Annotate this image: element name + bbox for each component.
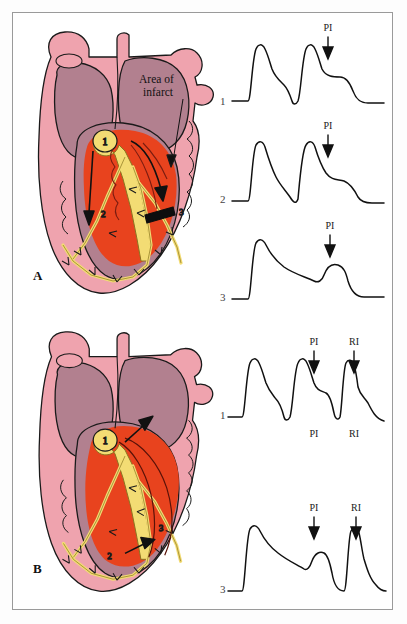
marker-1-a: 1 [103,136,108,147]
trace-a-2-number: 2 [220,193,226,205]
marker-2-b: 2 [107,551,111,561]
trace-b-1-label-pi-below: PI [310,428,319,439]
trace-b-3-label-pi: PI [310,502,319,513]
marker-3-a: 3 [179,207,184,217]
trace-a-1: 1 PI [218,19,390,115]
figure-frame: A [12,12,393,610]
trace-a-3: 3 PI [218,211,390,309]
panel-a: A [13,13,394,313]
trace-a-1-label-pi: PI [324,22,333,33]
trace-b-1-label-ri-below: RI [349,428,359,439]
heart-diagram-a: 1 [21,17,233,307]
trace-a-3-label-pi: PI [326,220,335,231]
trace-a-1-number: 1 [220,95,226,107]
panel-b: B [13,313,394,611]
infarct-label-line2: infarct [143,86,174,98]
marker-2-a: 2 [101,209,106,219]
infarct-label-line1: Area of [139,73,174,85]
marker-1-b: 1 [103,435,108,446]
trace-b-1-label-pi-above: PI [310,336,319,347]
trace-b-3: 3 PI RI [218,493,390,605]
trace-a-3-number: 3 [220,291,226,303]
trace-b-3-label-ri: RI [351,502,361,513]
trace-b-3-number: 3 [220,583,226,595]
trace-b-1-number: 1 [220,409,226,421]
trace-a-2-label-pi: PI [324,120,333,131]
trace-b-1-label-ri-above: RI [349,336,359,347]
trace-b-1: 1 PI RI PI RI [218,333,390,443]
trace-a-2: 2 PI [218,117,390,213]
heart-diagram-b: 1 [21,317,233,605]
marker-3-b: 3 [159,524,164,534]
figure-root: A [0,0,407,624]
